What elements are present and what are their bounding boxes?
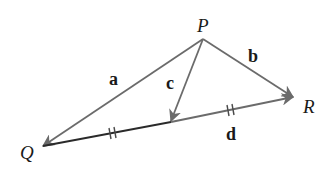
vector-label-b: b (248, 46, 258, 66)
vector-label-d: d (226, 124, 236, 144)
point-label-q: Q (20, 142, 34, 163)
point-label-r: R (302, 96, 315, 117)
vector-label-c: c (166, 73, 174, 93)
vector-a-arrow (43, 39, 203, 146)
vector-triangle-diagram: P Q R a b c d (0, 0, 331, 177)
point-label-p: P (196, 15, 209, 36)
vector-d-arrow (171, 97, 293, 122)
vector-c-arrow (171, 39, 203, 121)
vector-label-a: a (109, 69, 118, 89)
